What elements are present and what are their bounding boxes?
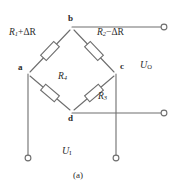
voltage-label-output: UO — [140, 60, 152, 71]
resistor-delta-r2: ΔR — [111, 27, 123, 37]
node-label-d: d — [68, 114, 73, 123]
resistor-label-r4: R4 — [58, 72, 67, 82]
node-label-b: b — [68, 14, 73, 23]
figure-caption: (a) — [73, 170, 83, 180]
input-terminal-right — [113, 155, 119, 161]
output-terminal-top — [161, 24, 167, 30]
resistor-subscript-r4: 4 — [64, 74, 67, 81]
node-label-a: a — [18, 63, 23, 72]
resistor-body-r4 — [41, 84, 60, 102]
resistor-label-r3: R3 — [98, 92, 107, 102]
resistor-subscript-r3: 3 — [104, 94, 107, 101]
voltage-subscript-uo: O — [147, 63, 152, 70]
input-terminal-left — [25, 155, 31, 161]
resistor-body-r2 — [85, 41, 104, 60]
resistor-delta-r1: ΔR — [23, 27, 35, 37]
resistor-label-r1: R1+ΔR — [9, 28, 36, 38]
voltage-subscript-ui: I — [69, 149, 71, 156]
node-label-c: c — [120, 62, 124, 71]
resistor-body-r1 — [41, 41, 60, 60]
wheatstone-bridge-figure: b a c d R1+ΔR R2−ΔR R4 R3 UO UI (a) — [0, 0, 179, 187]
output-terminal-bottom — [161, 110, 167, 116]
voltage-label-input: UI — [62, 146, 71, 157]
resistor-label-r2: R2−ΔR — [97, 28, 124, 38]
